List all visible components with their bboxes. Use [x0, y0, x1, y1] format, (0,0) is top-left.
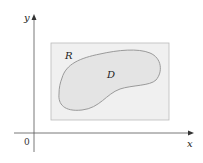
y-axis-label: y	[23, 12, 30, 23]
double-integral-region-diagram: y x 0 R D	[0, 0, 203, 163]
rectangle-label-r: R	[64, 50, 73, 61]
y-axis-arrow-icon	[32, 14, 37, 20]
origin-label: 0	[24, 137, 30, 147]
x-axis-label: x	[187, 138, 193, 149]
region-label-d: D	[106, 69, 115, 80]
x-axis-arrow-icon	[188, 131, 194, 136]
